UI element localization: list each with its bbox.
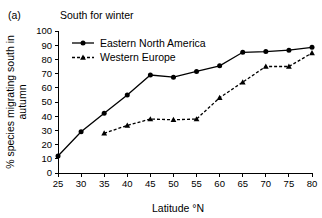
data-point-marker: [309, 50, 315, 55]
chart-title: South for winter: [60, 9, 134, 21]
data-point-marker: [102, 111, 107, 116]
y-tick-label: 30: [41, 125, 52, 136]
series-1: [56, 45, 315, 159]
x-tick-label: 55: [191, 178, 202, 189]
data-point-marker: [263, 49, 268, 54]
plot-series: [56, 45, 315, 159]
y-tick-label: 50: [41, 96, 52, 107]
x-tick-label: 50: [168, 178, 179, 189]
y-tick-label: 100: [36, 25, 52, 36]
data-point-marker: [148, 73, 153, 78]
data-point-marker: [194, 69, 199, 74]
data-point-marker: [217, 63, 222, 68]
x-tick-label: 45: [145, 178, 156, 189]
y-tick-label: 10: [41, 153, 52, 164]
x-tick-label: 70: [261, 178, 272, 189]
x-tick-label: 60: [214, 178, 225, 189]
data-point-marker: [310, 45, 315, 50]
y-tick-label: 80: [41, 54, 52, 65]
data-point-marker: [81, 41, 86, 46]
y-axis-title-line-2: autumn: [16, 84, 28, 119]
legend-label-2: Western Europe: [100, 51, 176, 63]
data-point-marker: [80, 55, 86, 60]
data-point-marker: [240, 50, 245, 55]
panel-label: (a): [8, 9, 21, 21]
x-tick-label: 80: [307, 178, 318, 189]
data-point-marker: [125, 92, 130, 97]
series-line: [58, 47, 312, 156]
data-point-marker: [263, 64, 269, 69]
data-point-marker: [79, 129, 84, 134]
data-point-marker: [171, 75, 176, 80]
legend: Eastern North AmericaWestern Europe: [72, 37, 206, 64]
y-tick-label: 0: [47, 167, 52, 178]
x-axis-title: Latitude °N: [152, 202, 204, 214]
data-point-marker: [171, 117, 177, 122]
x-tick-label: 30: [76, 178, 87, 189]
data-point-marker: [56, 153, 61, 158]
x-tick-label: 65: [237, 178, 248, 189]
y-tick-label: 20: [41, 139, 52, 150]
x-tick-label: 25: [53, 178, 64, 189]
x-tick-label: 75: [284, 178, 295, 189]
y-tick-label: 90: [41, 40, 52, 51]
data-point-marker: [217, 95, 223, 100]
y-axis-title-line-1: % species migrating south in: [4, 35, 16, 169]
data-point-marker: [286, 48, 291, 53]
line-chart: (a) South for winter Latitude °N % speci…: [0, 0, 322, 218]
series-line: [104, 53, 312, 133]
axes: 0102030405060708090100253035404550556065…: [36, 25, 317, 189]
y-tick-label: 70: [41, 68, 52, 79]
legend-label-1: Eastern North America: [100, 37, 206, 49]
figure-panel-a: (a) South for winter Latitude °N % speci…: [0, 0, 322, 218]
y-tick-label: 40: [41, 111, 52, 122]
x-tick-label: 40: [122, 178, 133, 189]
x-tick-label: 35: [99, 178, 110, 189]
y-tick-label: 60: [41, 82, 52, 93]
